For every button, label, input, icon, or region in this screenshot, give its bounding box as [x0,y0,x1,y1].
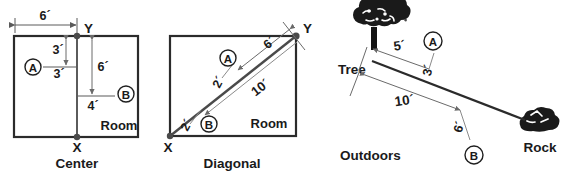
point-x-dot-diagonal [167,133,173,139]
marker-a-label-diagonal: A [224,53,232,65]
marker-b-label-center: B [122,89,130,101]
marker-b-label-diagonal: B [205,119,213,131]
dim-a-along-label-outdoors: 5´ [393,37,407,53]
caption-diagonal: Diagonal [203,156,260,171]
marker-a-label-center: A [29,62,37,74]
caption-outdoors: Outdoors [340,148,401,163]
dim-top-width-label: 6´ [39,9,50,23]
rock-label: Rock [523,140,557,155]
dim-b-along-label-outdoors: 10´ [394,92,415,110]
marker-a-label-outdoors: A [429,36,437,48]
point-y-label-center: Y [84,21,93,36]
room-label-center: Room [101,118,138,133]
point-x-label-center: X [72,140,81,155]
point-x-label-diagonal: X [163,140,172,155]
point-y-dot-center [74,33,80,39]
dim-b-vertical-label: 6´ [97,60,108,74]
room-label-diagonal: Room [251,116,288,131]
point-y-label-diagonal: Y [303,21,312,36]
dim-a-horizontal-label: 3´ [53,67,64,81]
marker-b-label-outdoors: B [470,150,478,162]
tree-label: Tree [338,62,366,77]
reference-point-diagram: 6´ 3´ 3´ A 6´ 4´ B Y X Room Center [0,0,569,173]
caption-center: Center [56,156,100,171]
dim-b-horizontal-label: 4´ [87,99,98,113]
dim-a-vertical-label: 3´ [52,43,63,57]
